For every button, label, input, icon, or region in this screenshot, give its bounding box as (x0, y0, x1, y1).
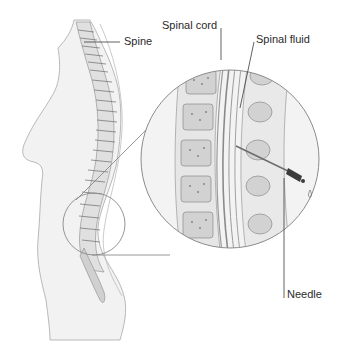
label-spine: Spine (124, 36, 152, 47)
body-silhouette (23, 20, 126, 340)
magnified-view (141, 60, 319, 252)
lumbar-puncture-diagram: Spine Spinal cord Spinal fluid Needle (0, 0, 344, 354)
label-spinal-fluid: Spinal fluid (256, 34, 310, 45)
label-spinal-cord: Spinal cord (162, 20, 217, 31)
label-needle: Needle (287, 289, 322, 300)
